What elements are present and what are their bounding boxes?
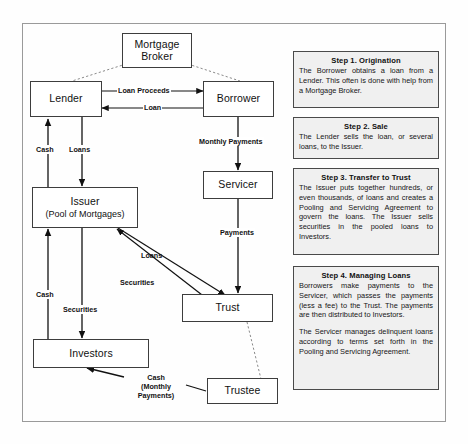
node-investors-label: Investors xyxy=(69,348,113,360)
step-panel-3[interactable]: Step 3. Transfer to Trust The Issuer put… xyxy=(293,168,439,255)
edge-label-loan-proceeds: Loan Proceeds xyxy=(117,86,171,95)
edge-label-cash-monthly-line3: Payments) xyxy=(127,391,185,400)
node-trust[interactable]: Trust xyxy=(182,294,273,322)
node-trustee-label: Trustee xyxy=(225,385,261,397)
edge-label-cash-monthly-line1: Cash xyxy=(127,373,185,382)
node-mortgage-broker-label-line2: Broker xyxy=(141,51,173,63)
node-issuer-sublabel: (Pool of Mortgages) xyxy=(45,209,124,219)
node-lender-label: Lender xyxy=(49,93,82,105)
edge-label-loans-trust: Loans xyxy=(140,251,163,260)
edge-label-loan: Loan xyxy=(143,103,162,112)
step-panel-1[interactable]: Step 1. Origination The Borrower obtains… xyxy=(293,51,439,108)
node-issuer[interactable]: Issuer (Pool of Mortgages) xyxy=(32,187,138,228)
node-mortgage-broker-label-line1: Mortgage xyxy=(134,39,179,51)
node-trustee[interactable]: Trustee xyxy=(207,378,278,404)
step-3-body: The Issuer puts together hundreds, or ev… xyxy=(299,183,433,242)
step-2-body: The Lender sells the loan, or several lo… xyxy=(299,132,433,152)
step-1-body: The Borrower obtains a loan from a Lende… xyxy=(299,66,433,95)
node-borrower-label: Borrower xyxy=(217,93,260,105)
step-2-title: Step 2. Sale xyxy=(299,122,433,131)
step-panel-2[interactable]: Step 2. Sale The Lender sells the loan, … xyxy=(293,117,439,159)
node-servicer-label: Servicer xyxy=(218,179,257,191)
step-4-title: Step 4. Managing Loans xyxy=(299,271,433,280)
node-trust-label: Trust xyxy=(215,302,239,314)
edge-label-securities-issuer: Securities xyxy=(119,278,155,287)
node-servicer[interactable]: Servicer xyxy=(203,171,273,199)
edge-label-monthly-payments: Monthly Payments xyxy=(198,137,264,146)
edge-label-payments: Payments xyxy=(219,228,255,237)
step-4-body-para2: The Servicer manages delinquent loans ac… xyxy=(299,327,433,356)
node-issuer-label: Issuer xyxy=(70,196,99,208)
step-panel-4[interactable]: Step 4. Managing Loans Borrowers make pa… xyxy=(293,266,439,390)
node-borrower[interactable]: Borrower xyxy=(203,81,274,117)
node-investors[interactable]: Investors xyxy=(33,339,149,368)
edge-label-cash-lender: Cash xyxy=(35,145,55,154)
step-3-title: Step 3. Transfer to Trust xyxy=(299,173,433,182)
figure-canvas: Mortgage Broker Lender Borrower Issuer (… xyxy=(0,0,468,444)
edge-label-securities-investors: Securities xyxy=(62,305,98,314)
node-mortgage-broker[interactable]: Mortgage Broker xyxy=(122,33,192,68)
step-4-body-para1: Borrowers make payments to the Servicer,… xyxy=(299,281,433,320)
edge-label-loans-lender: Loans xyxy=(68,145,91,154)
node-lender[interactable]: Lender xyxy=(30,81,102,117)
edge-label-cash-investors: Cash xyxy=(35,290,55,299)
edge-label-cash-monthly-line2: (Monthly xyxy=(127,382,185,391)
edge-label-cash-monthly-payments: Cash (Monthly Payments) xyxy=(126,373,186,400)
step-1-title: Step 1. Origination xyxy=(299,56,433,65)
